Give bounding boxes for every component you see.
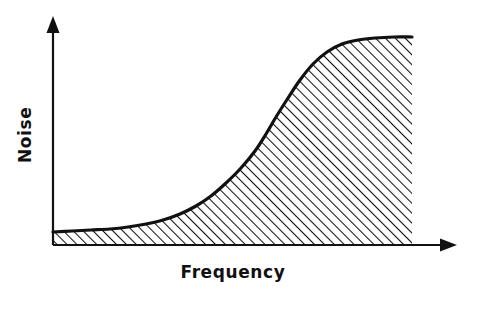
- figure-root: Noise Frequency: [0, 0, 483, 317]
- arrow-right-icon: [440, 239, 457, 252]
- x-axis-label: Frequency: [181, 262, 286, 282]
- hatched-area: [53, 37, 412, 245]
- y-axis-label: Noise: [15, 107, 35, 163]
- arrow-up-icon: [47, 16, 60, 33]
